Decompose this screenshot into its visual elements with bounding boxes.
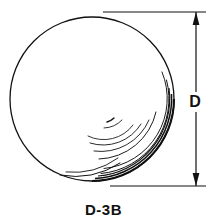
sphere-dimension-drawing: D — [0, 0, 207, 219]
figure-caption: D-3B — [0, 202, 207, 218]
sphere-outline-group — [10, 17, 174, 181]
dimension-label-D: D — [189, 93, 201, 110]
technical-drawing-canvas: D D-3B — [0, 0, 207, 219]
